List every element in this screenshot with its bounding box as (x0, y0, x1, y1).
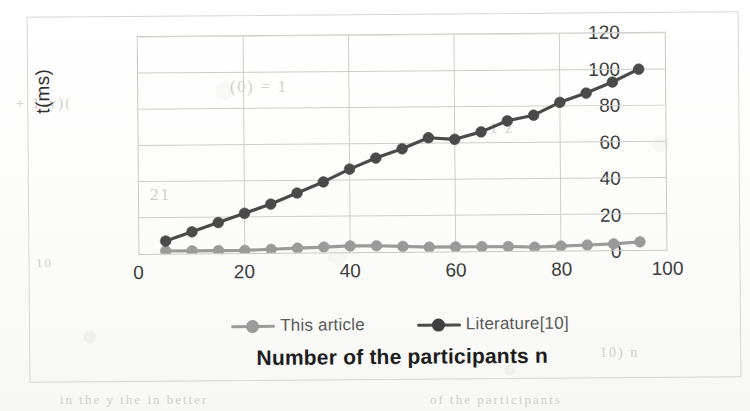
x-tick-label: 80 (532, 259, 592, 278)
x-tick-label: 0 (109, 263, 169, 282)
x-tick-label: 20 (214, 262, 274, 281)
legend-marker-icon (417, 317, 461, 331)
legend-dot (246, 320, 259, 333)
legend-item-literature[interactable]: Literature[10] (417, 314, 569, 335)
x-tick-label: 60 (426, 260, 486, 279)
legend-label: Literature[10] (466, 314, 569, 335)
x-tick-label: 100 (637, 259, 697, 278)
legend-dot (432, 319, 445, 332)
legend-item-this-article[interactable]: This article (231, 315, 365, 336)
plot-svg (138, 33, 667, 254)
ghost-artifact: in the y the in better (60, 392, 208, 408)
x-axis-title: Number of the participants n (30, 342, 740, 372)
chart-legend: This article Literature[10] (30, 312, 740, 338)
legend-label: This article (280, 315, 365, 336)
x-tick-label: 40 (320, 261, 380, 280)
y-axis-title: t(ms) (32, 69, 54, 114)
chart-container: t(ms) 120 100 80 60 40 20 0 0 20 40 60 8… (27, 11, 742, 383)
ghost-artifact: of the participants (430, 392, 562, 408)
plot-area (137, 32, 668, 255)
legend-marker-icon (231, 319, 275, 333)
